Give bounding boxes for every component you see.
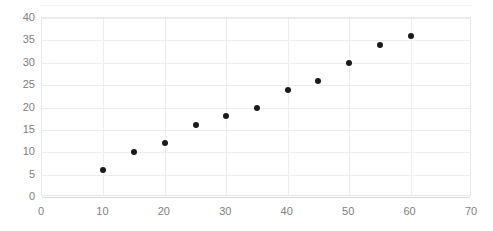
gridline-horizontal	[42, 85, 470, 86]
x-axis-tick-labels: 010203040506070	[41, 206, 471, 222]
gridline-horizontal	[42, 40, 470, 41]
x-tick-label: 30	[219, 206, 231, 217]
data-point	[223, 113, 229, 119]
gridline-horizontal	[42, 152, 470, 153]
y-tick-label: 0	[29, 191, 35, 202]
y-tick-label: 15	[23, 123, 35, 134]
plot-area	[41, 17, 471, 196]
y-tick-label: 30	[23, 56, 35, 67]
gridline-horizontal	[42, 197, 470, 198]
data-point	[193, 122, 199, 128]
x-tick-label: 50	[342, 206, 354, 217]
gridline-horizontal	[42, 18, 470, 19]
x-tick-label: 20	[158, 206, 170, 217]
gridline-horizontal	[42, 63, 470, 64]
gridline-vertical	[165, 18, 166, 195]
top-rule	[41, 5, 471, 6]
gridline-vertical	[349, 18, 350, 195]
gridline-vertical	[411, 18, 412, 195]
data-point	[346, 60, 352, 66]
x-tick-label: 0	[38, 206, 44, 217]
y-tick-label: 20	[23, 101, 35, 112]
y-tick-label: 5	[29, 168, 35, 179]
scatter-chart: 0510152025303540 010203040506070	[0, 0, 493, 231]
data-point	[408, 33, 414, 39]
data-point	[285, 87, 291, 93]
data-point	[377, 42, 383, 48]
y-axis-tick-labels: 0510152025303540	[0, 17, 35, 196]
data-point	[131, 149, 137, 155]
y-tick-label: 40	[23, 12, 35, 23]
y-tick-label: 25	[23, 79, 35, 90]
x-tick-label: 40	[281, 206, 293, 217]
data-point	[315, 78, 321, 84]
x-tick-label: 60	[403, 206, 415, 217]
gridline-vertical	[288, 18, 289, 195]
gridline-horizontal	[42, 130, 470, 131]
gridline-vertical	[226, 18, 227, 195]
gridline-horizontal	[42, 175, 470, 176]
y-tick-label: 35	[23, 34, 35, 45]
x-tick-label: 70	[465, 206, 477, 217]
data-point	[162, 140, 168, 146]
data-point	[254, 105, 260, 111]
x-tick-label: 10	[96, 206, 108, 217]
data-point	[100, 167, 106, 173]
y-tick-label: 10	[23, 146, 35, 157]
